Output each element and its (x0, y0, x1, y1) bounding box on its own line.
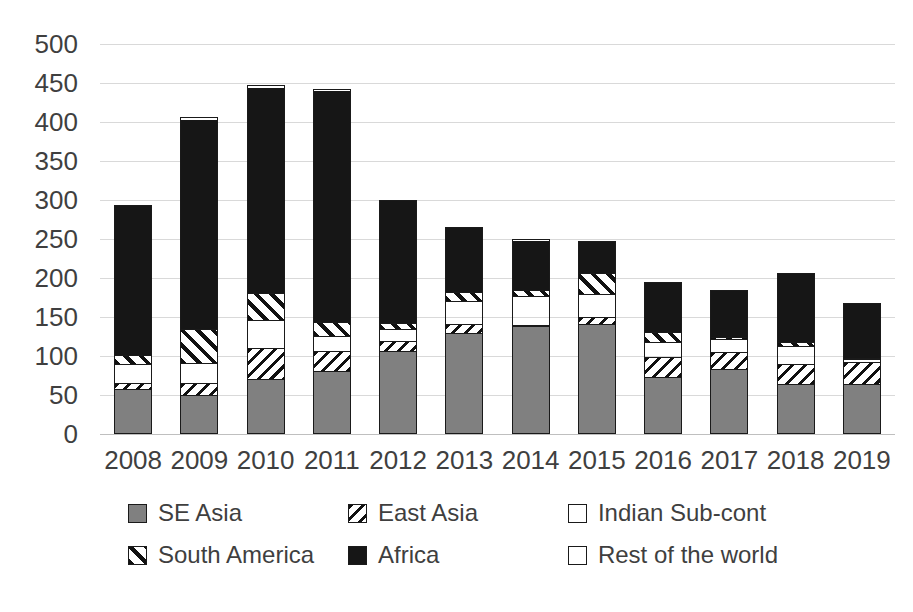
bar-segment-2010-east-asia[interactable] (247, 348, 285, 380)
bar-segment-2014-se-asia[interactable] (512, 327, 550, 434)
stacked-bar-2008[interactable] (114, 205, 152, 434)
bar-segment-2017-east-asia[interactable] (710, 352, 748, 370)
legend-item-africa[interactable]: Africa (348, 534, 568, 576)
bar-segment-2015-south-america[interactable] (578, 273, 616, 296)
bar-segment-2015-se-asia[interactable] (578, 325, 616, 434)
bar-segment-2016-east-asia[interactable] (644, 357, 682, 378)
y-tick-label-500: 500 (35, 31, 78, 57)
bar-segment-2017-se-asia[interactable] (710, 370, 748, 434)
bar-segment-2012-africa[interactable] (379, 200, 417, 322)
bar-segment-2010-rest-of-the-world[interactable] (247, 85, 285, 88)
bar-segment-2009-east-asia[interactable] (180, 383, 218, 395)
x-tick-label-2009: 2009 (166, 440, 232, 480)
bar-segment-2011-east-asia[interactable] (313, 351, 351, 371)
bar-segment-2012-indian-sub-cont[interactable] (379, 330, 417, 341)
y-tick-label-200: 200 (35, 265, 78, 291)
bar-segment-2015-indian-sub-cont[interactable] (578, 295, 616, 317)
bar-segment-2011-indian-sub-cont[interactable] (313, 337, 351, 352)
bar-segment-2014-indian-sub-cont[interactable] (512, 297, 550, 325)
bar-segment-2012-se-asia[interactable] (379, 352, 417, 434)
bar-segment-2016-se-asia[interactable] (644, 378, 682, 434)
bar-segment-2017-south-america[interactable] (710, 337, 748, 340)
stacked-bar-2013[interactable] (445, 227, 483, 434)
bar-segment-2008-africa[interactable] (114, 205, 152, 356)
x-tick-label-2012: 2012 (365, 440, 431, 480)
bar-segment-2017-africa[interactable] (710, 290, 748, 338)
bar-segment-2016-africa[interactable] (644, 282, 682, 332)
stacked-bar-2019[interactable] (843, 303, 881, 434)
bar-segment-2008-se-asia[interactable] (114, 390, 152, 434)
bar-slot-2010 (233, 44, 299, 434)
bar-slot-2013 (431, 44, 497, 434)
bar-segment-2018-africa[interactable] (777, 273, 815, 342)
bar-segment-2017-indian-sub-cont[interactable] (710, 340, 748, 352)
bar-segment-2018-east-asia[interactable] (777, 364, 815, 385)
bar-segment-2009-south-america[interactable] (180, 329, 218, 364)
legend-item-rest-of-the-world[interactable]: Rest of the world (568, 534, 788, 576)
legend-item-south-america[interactable]: South America (128, 534, 348, 576)
bar-segment-2011-rest-of-the-world[interactable] (313, 89, 351, 91)
bar-segment-2010-south-america[interactable] (247, 293, 285, 321)
x-tick-label-2017: 2017 (696, 440, 762, 480)
stacked-bar-2016[interactable] (644, 282, 682, 434)
bar-segment-2012-south-america[interactable] (379, 323, 417, 331)
bar-segment-2011-south-america[interactable] (313, 322, 351, 337)
x-tick-label-2013: 2013 (431, 440, 497, 480)
legend-swatch-indian-sub-cont-icon (568, 504, 587, 523)
bar-segment-2019-east-asia[interactable] (843, 362, 881, 385)
bar-segment-2019-indian-sub-cont[interactable] (843, 360, 881, 362)
bar-segment-2019-africa[interactable] (843, 303, 881, 358)
bar-segment-2015-africa[interactable] (578, 241, 616, 272)
bar-segment-2008-south-america[interactable] (114, 355, 152, 365)
bar-segment-2018-indian-sub-cont[interactable] (777, 347, 815, 364)
legend-item-east-asia[interactable]: East Asia (348, 492, 568, 534)
bar-segment-2011-se-asia[interactable] (313, 372, 351, 434)
bar-segment-2013-south-america[interactable] (445, 292, 483, 302)
legend-swatch-africa-icon (348, 546, 367, 565)
bar-segment-2018-south-america[interactable] (777, 342, 815, 347)
bar-segment-2009-rest-of-the-world[interactable] (180, 117, 218, 121)
bar-segment-2019-se-asia[interactable] (843, 385, 881, 434)
bar-segment-2008-indian-sub-cont[interactable] (114, 365, 152, 382)
bar-segment-2013-indian-sub-cont[interactable] (445, 302, 483, 324)
bar-segment-2014-south-america[interactable] (512, 290, 550, 297)
bar-segment-2019-south-america[interactable] (843, 358, 881, 360)
bar-segment-2018-se-asia[interactable] (777, 385, 815, 434)
bar-segment-2016-south-america[interactable] (644, 332, 682, 343)
x-tick-label-2018: 2018 (763, 440, 829, 480)
bar-segment-2010-indian-sub-cont[interactable] (247, 321, 285, 348)
bar-segment-2013-se-asia[interactable] (445, 334, 483, 434)
bar-segment-2010-africa[interactable] (247, 88, 285, 293)
stacked-bar-2017[interactable] (710, 290, 748, 434)
bar-segment-2009-africa[interactable] (180, 120, 218, 328)
stacked-bar-2012[interactable] (379, 200, 417, 434)
legend-item-indian-sub-cont[interactable]: Indian Sub-cont (568, 492, 788, 534)
bar-segment-2014-east-asia[interactable] (512, 325, 550, 327)
legend-item-se-asia[interactable]: SE Asia (128, 492, 348, 534)
bar-segment-2014-rest-of-the-world[interactable] (512, 239, 550, 241)
bar-slot-2012 (365, 44, 431, 434)
x-tick-label-2008: 2008 (100, 440, 166, 480)
y-tick-label-300: 300 (35, 187, 78, 213)
stacked-bar-2009[interactable] (180, 117, 218, 434)
stacked-bar-2014[interactable] (512, 239, 550, 434)
stacked-bar-2010[interactable] (247, 85, 285, 434)
legend-swatch-east-asia-icon (348, 504, 367, 523)
stacked-bar-2018[interactable] (777, 273, 815, 434)
stacked-bar-2015[interactable] (578, 241, 616, 434)
stacked-bar-2011[interactable] (313, 89, 351, 434)
bar-segment-2013-east-asia[interactable] (445, 324, 483, 334)
bar-segment-2009-se-asia[interactable] (180, 396, 218, 434)
bar-segment-2010-se-asia[interactable] (247, 380, 285, 434)
bar-slot-2018 (763, 44, 829, 434)
bar-segment-2009-indian-sub-cont[interactable] (180, 364, 218, 384)
bar-segment-2008-east-asia[interactable] (114, 383, 152, 391)
bar-segment-2011-africa[interactable] (313, 91, 351, 322)
bar-segment-2012-east-asia[interactable] (379, 341, 417, 352)
plot-area (100, 44, 895, 434)
bar-segment-2013-africa[interactable] (445, 227, 483, 292)
bar-segment-2015-east-asia[interactable] (578, 317, 616, 325)
bar-segment-2016-indian-sub-cont[interactable] (644, 343, 682, 357)
bar-segment-2014-africa[interactable] (512, 241, 550, 289)
legend-swatch-rest-of-the-world-icon (568, 546, 587, 565)
